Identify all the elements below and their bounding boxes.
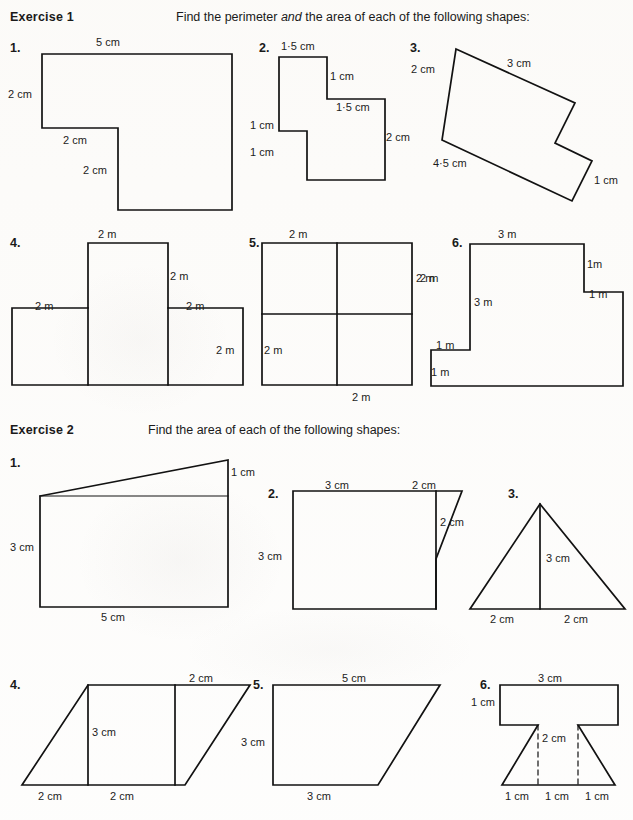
exercise-1-question-2-number: 2.	[259, 41, 269, 55]
exercise-2-q3-label-base-right: 2 cm	[564, 613, 588, 625]
exercise-1-q5-label-bottom: 2 m	[352, 391, 370, 403]
exercise-2-q3-label-base-left: 2 cm	[490, 613, 514, 625]
exercise-1-q1-label-inner-vertical: 2 cm	[83, 164, 107, 176]
exercise-1-q6-label-step-right-lower: 1 m	[589, 288, 607, 300]
exercise-2-q5-label-bottom: 3 cm	[307, 790, 331, 802]
exercise-2-q3-label-height: 3 cm	[546, 552, 570, 564]
trapezium-outline	[273, 685, 440, 785]
exercise-2-q1-label-right: 1 cm	[231, 466, 255, 478]
exercise-1-q1-label-top: 5 cm	[96, 36, 120, 48]
exercise-2-instruction: Find the area of each of the following s…	[148, 423, 400, 437]
exercise-1-q6-label-top: 3 m	[498, 228, 516, 240]
exercise-1-question-3-number: 3.	[410, 41, 420, 55]
exercise-1-figure-4	[10, 240, 245, 390]
exercise-1-question-1-number: 1.	[10, 41, 20, 55]
exercise-2-heading: Exercise 2	[10, 423, 74, 437]
exercise-1-q3-label-top: 3 cm	[507, 57, 531, 69]
exercise-1-q4-label-right-lower: 2 m	[216, 344, 234, 356]
exercise-2-q6-label-left: 1 cm	[471, 696, 495, 708]
exercise-1-q6-label-inner-left: 3 m	[474, 296, 492, 308]
exercise-1-q4-label-stem-right: 2 m	[170, 270, 188, 282]
exercise-1-figure-5	[260, 240, 415, 390]
exercise-1-q1-label-left: 2 cm	[8, 88, 32, 100]
exercise-1-q2-label-top: 1·5 cm	[281, 40, 315, 52]
exercise-2-figure-2	[290, 487, 465, 622]
exercise-2-q6-label-base-right: 1 cm	[585, 790, 609, 802]
exercise-1-q3-label-right: 1 cm	[594, 174, 618, 186]
exercise-2-q1-label-left: 3 cm	[10, 541, 34, 553]
exercise-1-heading: Exercise 1	[10, 10, 74, 24]
exercise-2-q2-label-top-right: 2 cm	[412, 479, 436, 491]
exercise-1-q2-label-left-lower: 1 cm	[250, 146, 274, 158]
exercise-2-figure-5	[268, 680, 468, 800]
exercise-1-q5-label-left: 2 m	[264, 344, 282, 356]
rect-with-triangle-outline	[40, 460, 228, 607]
exercise-2-q4-label-top-right: 2 cm	[189, 672, 213, 684]
exercise-1-q3-label-upper-left: 2 cm	[411, 63, 435, 75]
exercise-2-q6-label-base-left: 1 cm	[505, 790, 529, 802]
exercise-2-q2-label-left: 3 cm	[258, 550, 282, 562]
exercise-2-q1-label-bottom: 5 cm	[101, 611, 125, 623]
exercise-1-q2-label-right-lower: 2 cm	[386, 131, 410, 143]
exercise-1-q2-label-left-upper: 1 cm	[250, 119, 274, 131]
worksheet-page: Exercise 1 Find the perimeter and the ar…	[0, 0, 633, 820]
exercise-1-q5-label-top: 2 m	[289, 228, 307, 240]
exercise-1-q4-label-left: 2 m	[35, 300, 53, 312]
exercise-1-q4-label-top: 2 m	[98, 228, 116, 240]
exercise-2-question-2-number: 2.	[268, 487, 278, 501]
exercise-1-q6-label-step-right-upper: 1m	[587, 258, 602, 270]
exercise-1-q4-label-right-top: 2 m	[186, 300, 204, 312]
exercise-1-q6-label-step-left-lower: 1 m	[431, 366, 449, 378]
exercise-2-figure-1	[38, 455, 238, 615]
exercise-2-question-5-number: 5.	[253, 678, 263, 692]
exercise-1-instruction: Find the perimeter and the area of each …	[176, 10, 530, 24]
rotated-rectilinear-outline	[442, 49, 592, 201]
exercise-2-q4-label-base-left: 2 cm	[38, 790, 62, 802]
exercise-1-question-5-number: 5.	[249, 236, 259, 250]
exercise-2-q5-label-left: 3 cm	[241, 736, 265, 748]
exercise-2-q6-label-height: 2 cm	[542, 732, 566, 744]
exercise-2-q4-label-height: 3 cm	[92, 726, 116, 738]
t-shape-outline	[12, 243, 243, 385]
l-shape-outline	[42, 54, 232, 210]
exercise-1-q3-label-bottom: 4·5 cm	[433, 157, 467, 169]
exercise-1-q6-label-outer-left: 2 m	[420, 272, 438, 284]
exercise-2-q2-label-top-left: 3 cm	[325, 479, 349, 491]
exercise-1-q2-label-step: 1·5 cm	[336, 101, 370, 113]
exercise-2-q5-label-top: 5 cm	[342, 672, 366, 684]
exercise-1-q2-label-right-upper: 1 cm	[330, 70, 354, 82]
parallelogram-outline	[22, 685, 250, 785]
exercise-2-figure-4	[10, 680, 260, 800]
exercise-1-instruction-pre: Find the perimeter	[176, 10, 281, 24]
exercise-2-q4-label-base-right: 2 cm	[110, 790, 134, 802]
exercise-2-q6-label-base-mid: 1 cm	[545, 790, 569, 802]
exercise-1-q1-label-inner-horizontal: 2 cm	[63, 134, 87, 146]
exercise-1-instruction-post: the area of each of the following shapes…	[302, 10, 530, 24]
exercise-1-q6-label-step-left-upper: 1 m	[436, 339, 454, 351]
exercise-1-instruction-emphasis: and	[281, 10, 302, 24]
exercise-1-figure-1	[40, 50, 240, 215]
exercise-2-q6-label-top: 3 cm	[538, 672, 562, 684]
exercise-2-question-1-number: 1.	[10, 456, 20, 470]
